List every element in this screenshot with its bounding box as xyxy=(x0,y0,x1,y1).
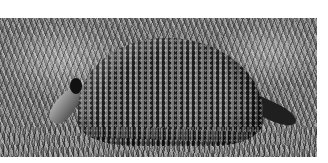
grass-foreground xyxy=(0,127,317,157)
armadillo-photo xyxy=(0,18,317,157)
armadillo-ear xyxy=(70,78,82,94)
